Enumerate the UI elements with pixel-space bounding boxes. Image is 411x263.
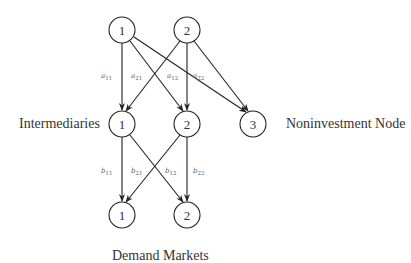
svg-text:1: 1 (119, 208, 126, 223)
edge-t1-m3 (134, 37, 246, 112)
node-intermediary-2: 2 (174, 111, 200, 137)
edge-label-b12: b12 (165, 167, 176, 176)
svg-text:2: 2 (184, 208, 191, 223)
edge-label-a21: a21 (131, 72, 142, 81)
node-intermediary-1: 1 (109, 111, 135, 137)
edge-label-a11: a11 (101, 72, 112, 81)
node-noninvestment-3: 3 (240, 111, 266, 137)
edge-label-a22: a22 (193, 72, 204, 81)
svg-text:1: 1 (119, 117, 126, 132)
edge-label-b11: b11 (101, 167, 112, 176)
svg-text:3: 3 (250, 117, 257, 132)
svg-text:2: 2 (184, 117, 191, 132)
label-noninvestment-node: Noninvestment Node (286, 116, 405, 132)
svg-text:1: 1 (119, 23, 126, 38)
edge-label-a12: a12 (167, 72, 178, 81)
label-intermediaries: Intermediaries (19, 116, 100, 132)
svg-text:2: 2 (184, 23, 191, 38)
node-top-2: 2 (174, 17, 200, 43)
edge-label-b22: b22 (193, 167, 204, 176)
node-top-1: 1 (109, 17, 135, 43)
edge-label-b21: b21 (131, 167, 142, 176)
edge-m1-d2 (130, 135, 183, 202)
label-demand-markets: Demand Markets (112, 248, 209, 263)
node-demand-1: 1 (109, 202, 135, 228)
node-demand-2: 2 (174, 202, 200, 228)
